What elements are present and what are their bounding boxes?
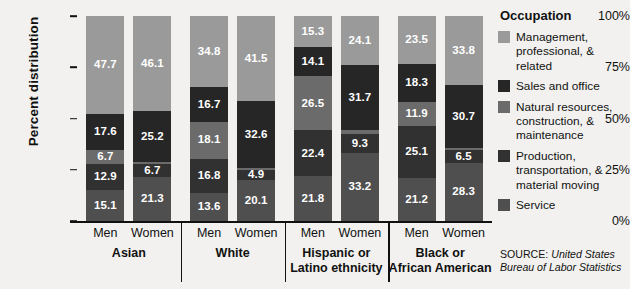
x-gender-label: Women: [131, 226, 174, 240]
bar-segment: 11.9: [398, 102, 436, 126]
bar-segment: 4.9: [237, 170, 275, 180]
stacked-bar[interactable]: 34.816.718.116.813.6: [190, 16, 228, 221]
bar-segment: 25.2: [133, 111, 171, 163]
bar-segment: 15.1: [86, 190, 124, 221]
bar-segment: 14.1: [294, 47, 332, 76]
bar-segment: 33.2: [341, 153, 379, 221]
x-axis-categories: MenWomenAsianMenWomenWhiteMenWomenHispan…: [77, 224, 492, 284]
y-tick-mark: [70, 15, 77, 17]
bar-group: 47.717.66.712.915.146.125.26.721.3: [77, 16, 181, 221]
legend-item[interactable]: Sales and office: [498, 79, 628, 93]
legend-label: Service: [516, 198, 555, 212]
stacked-bar[interactable]: 47.717.66.712.915.1: [86, 16, 124, 221]
x-gender-label: Men: [197, 226, 221, 240]
bar-segment: 6.7: [133, 164, 171, 178]
bar-segment: 28.3: [445, 163, 483, 221]
legend: Occupation Management, professional, & r…: [498, 8, 628, 218]
bar-segment: 24.1: [341, 16, 379, 65]
legend-swatch-icon: [498, 31, 510, 43]
source-prefix: SOURCE:: [500, 248, 548, 260]
stacked-bar[interactable]: 46.125.26.721.3: [133, 16, 171, 221]
bar-group: 34.816.718.116.813.641.532.64.920.1: [181, 16, 285, 221]
bar-segment: 13.6: [190, 193, 228, 221]
legend-swatch-icon: [498, 199, 510, 211]
stacked-bar[interactable]: 41.532.64.920.1: [237, 16, 275, 221]
x-axis-line: [70, 221, 492, 223]
bar-segment: 34.8: [190, 16, 228, 87]
bar-segment: 16.7: [190, 87, 228, 121]
x-group-label: White: [216, 246, 250, 261]
x-gender-label: Women: [442, 226, 485, 240]
y-tick-mark: [70, 66, 77, 68]
bar-segment: 32.6: [237, 101, 275, 168]
stacked-bar-chart: Percent distribution 0%25%50%75%100% 47.…: [0, 0, 630, 289]
y-tick-mark: [70, 169, 77, 171]
legend-item[interactable]: Service: [498, 198, 628, 212]
plot-area: 47.717.66.712.915.146.125.26.721.334.816…: [77, 16, 492, 221]
bar-segment: 46.1: [133, 16, 171, 111]
bar-segment: 18.3: [398, 64, 436, 102]
x-group-label: Hispanic orLatino ethnicity: [290, 246, 382, 276]
bar-segment: 25.1: [398, 126, 436, 177]
bar-group: 15.314.126.522.421.824.131.79.333.2: [285, 16, 389, 221]
bar-segment: 33.8: [445, 16, 483, 85]
legend-label: Production, transportation, & material m…: [516, 149, 628, 192]
stacked-bar[interactable]: 23.518.311.925.121.2: [398, 16, 436, 221]
stacked-bar[interactable]: 24.131.79.333.2: [341, 16, 379, 221]
legend-label: Natural resources, construction, & maint…: [516, 100, 628, 143]
bar-segment: 26.5: [294, 76, 332, 130]
bar-segment: 18.1: [190, 122, 228, 159]
x-group-label: Asian: [112, 246, 146, 261]
legend-swatch-icon: [498, 80, 510, 92]
x-gender-label: Men: [93, 226, 117, 240]
legend-item[interactable]: Natural resources, construction, & maint…: [498, 100, 628, 143]
bar-segment: 31.7: [341, 65, 379, 130]
bar-segment: 6.5: [445, 150, 483, 163]
bar-segment: 21.3: [133, 177, 171, 221]
stacked-bar[interactable]: 15.314.126.522.421.8: [294, 16, 332, 221]
y-axis-title: Percent distribution: [26, 0, 41, 177]
legend-item[interactable]: Production, transportation, & material m…: [498, 149, 628, 192]
bar-segment: 6.7: [86, 150, 124, 164]
bar-segment: 16.8: [190, 159, 228, 193]
bar-segment: 41.5: [237, 16, 275, 101]
x-gender-label: Men: [404, 226, 428, 240]
x-gender-label: Women: [235, 226, 278, 240]
bar-segment: 9.3: [341, 134, 379, 153]
bar-segment: 47.7: [86, 16, 124, 114]
bar-segment: 17.6: [86, 114, 124, 150]
bar-segment: 15.3: [294, 16, 332, 47]
bar-segment: 12.9: [86, 164, 124, 190]
bar-segment: 21.8: [294, 176, 332, 221]
legend-title: Occupation: [500, 8, 628, 23]
legend-swatch-icon: [498, 150, 510, 162]
bar-segment: 30.7: [445, 85, 483, 148]
legend-item[interactable]: Management, professional, & related: [498, 30, 628, 73]
bar-group: 23.518.311.925.121.233.830.76.528.3: [388, 16, 492, 221]
legend-swatch-icon: [498, 101, 510, 113]
stacked-bar[interactable]: 33.830.76.528.3: [445, 16, 483, 221]
bar-segment: 23.5: [398, 16, 436, 64]
bar-segment: 20.1: [237, 180, 275, 221]
bar-segment: 21.2: [398, 178, 436, 221]
legend-label: Sales and office: [516, 79, 600, 93]
y-tick-mark: [70, 118, 77, 120]
x-gender-label: Women: [338, 226, 381, 240]
y-axis: Percent distribution: [0, 0, 70, 289]
x-gender-label: Men: [301, 226, 325, 240]
bar-segment: 22.4: [294, 130, 332, 176]
x-group-label: Black orAfrican American: [389, 246, 492, 276]
source-note: SOURCE: United States Bureau of Labor St…: [500, 248, 630, 274]
legend-label: Management, professional, & related: [516, 30, 628, 73]
